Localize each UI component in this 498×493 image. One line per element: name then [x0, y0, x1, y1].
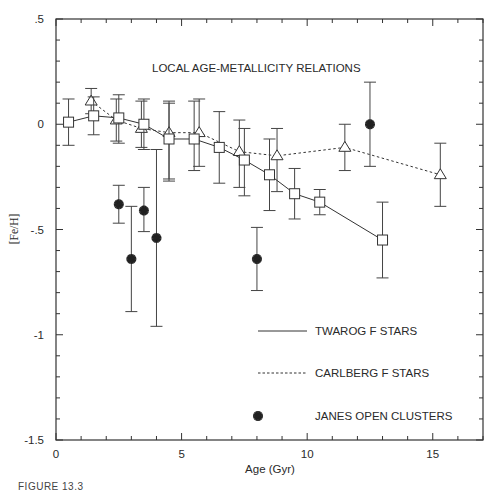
square-marker	[214, 142, 224, 152]
y-tick-label: -1.5	[24, 434, 44, 446]
y-tick-label: 0	[38, 118, 44, 130]
series-carlberg-f-stars	[85, 88, 446, 206]
legend-label: TWAROG F STARS	[315, 325, 418, 337]
x-tick-label: 10	[301, 448, 314, 460]
square-marker	[239, 155, 249, 165]
y-tick-label: -1	[34, 329, 44, 341]
legend-item: CARLBERG F STARS	[258, 367, 429, 379]
square-marker	[265, 170, 275, 180]
triangle-marker	[271, 150, 283, 160]
square-marker	[114, 113, 124, 123]
series-janes-open-clusters	[113, 82, 376, 326]
square-marker	[290, 189, 300, 199]
legend-item: TWAROG F STARS	[258, 325, 418, 337]
square-marker	[139, 119, 149, 129]
y-axis-label: [Fe/H]	[8, 214, 20, 245]
x-tick-label: 5	[178, 448, 184, 460]
square-marker	[164, 134, 174, 144]
x-tick-label: 0	[53, 448, 59, 460]
y-tick-label: -.5	[31, 224, 44, 236]
square-marker	[189, 134, 199, 144]
figure-caption: FIGURE 13.3	[18, 481, 84, 492]
triangle-marker	[339, 141, 351, 151]
y-tick-label: .5	[34, 13, 44, 25]
legend-item: JANES OPEN CLUSTERS	[253, 410, 453, 422]
x-tick-label: 15	[426, 448, 439, 460]
series-layer	[63, 82, 447, 326]
legend-label: JANES OPEN CLUSTERS	[315, 410, 453, 422]
x-axis-label: Age (Gyr)	[245, 463, 295, 475]
age-metallicity-chart: 051015.50-.5-1-1.5 LOCAL AGE-METALLICITY…	[0, 0, 498, 493]
legend-label: CARLBERG F STARS	[315, 367, 429, 379]
square-marker	[315, 197, 325, 207]
square-marker	[64, 117, 74, 127]
legend: TWAROG F STARSCARLBERG F STARSJANES OPEN…	[253, 325, 453, 422]
axes: 051015.50-.5-1-1.5	[24, 13, 483, 460]
square-marker	[378, 235, 388, 245]
series-line	[69, 116, 383, 240]
chart-title: LOCAL AGE-METALLICITY RELATIONS	[152, 62, 361, 74]
square-marker	[89, 111, 99, 121]
triangle-marker	[233, 146, 245, 156]
